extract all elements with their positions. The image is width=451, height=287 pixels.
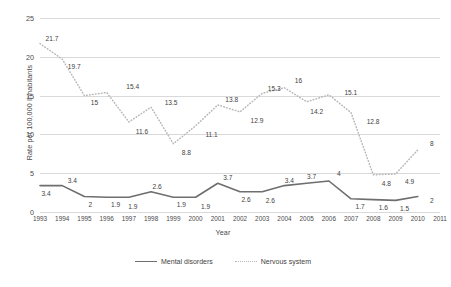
data-point-label: 2.6 [153,182,162,189]
data-point-label: 4.8 [382,179,391,186]
legend-swatch-icon [135,261,157,262]
legend-item-1[interactable]: Mental disorders [135,258,213,265]
data-point-label: 1.7 [356,202,365,209]
data-point-label: 3.4 [41,189,50,196]
data-point-label: 11.6 [136,127,148,134]
chart-legend: Mental disordersNervous system [0,258,446,265]
data-point-label: 2 [430,197,434,204]
data-point-label: 19.7 [68,63,81,70]
legend-label: Mental disorders [161,258,213,265]
data-point-label: 11.1 [205,130,217,137]
data-point-label: 3.7 [223,174,232,181]
data-point-label: 1.6 [379,203,388,210]
data-point-label: 4.9 [405,177,414,184]
series-line-2 [40,44,418,175]
data-point-label: 1.9 [201,203,210,210]
data-point-label: 3.7 [307,173,316,180]
data-point-label: 1.5 [400,205,409,212]
data-point-label: 1.9 [111,201,120,208]
data-point-label: 15.1 [344,88,357,95]
data-point-label: 1.9 [177,201,186,208]
legend-item-2[interactable]: Nervous system [235,258,311,265]
data-point-label: 2.6 [241,195,250,202]
data-point-label: 16 [295,76,302,83]
data-point-label: 3.4 [285,176,294,183]
legend-swatch-icon [235,261,257,262]
data-point-label: 2.6 [266,196,275,203]
data-point-label: 21.7 [46,34,59,41]
data-point-label: 15.3 [268,85,281,92]
data-point-label: 2 [89,201,93,208]
series-line-1 [40,181,418,200]
data-point-label: 4 [337,169,341,176]
data-point-label: 8.8 [182,148,191,155]
data-point-label: 12.8 [367,117,380,124]
data-point-label: 14.2 [310,107,323,114]
data-point-label: 15.4 [126,83,139,90]
data-point-label: 3.4 [68,176,77,183]
data-point-label: 15 [91,98,98,105]
data-point-label: 13.5 [165,99,178,106]
data-point-label: 13.8 [225,95,238,102]
data-point-label: 8 [430,139,434,146]
data-point-label: 1.9 [128,203,137,210]
legend-label: Nervous system [261,258,311,265]
data-point-label: 12.9 [251,116,264,123]
